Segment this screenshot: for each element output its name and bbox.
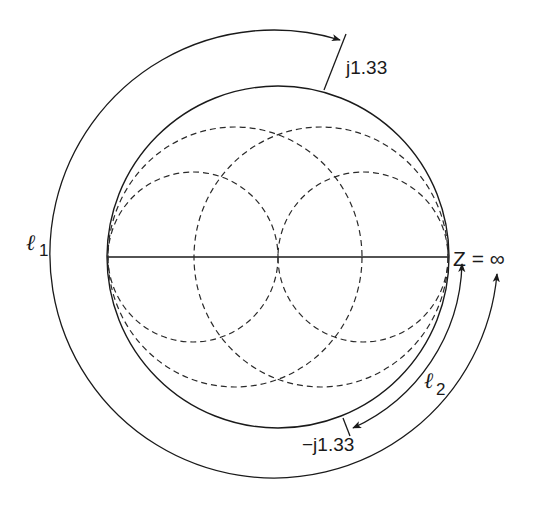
l1-subscript: 1 [39,241,48,260]
j133-tick-mark [324,34,346,90]
l2-symbol: ℓ [424,368,434,393]
l1-label: ℓ 1 [26,230,48,260]
l2-label: ℓ 2 [424,368,445,399]
j133-label: j1.33 [345,57,387,78]
neg-j133-label: −j1.33 [302,434,354,455]
l1-symbol: ℓ [26,230,36,255]
l1-arc [50,30,497,478]
z-infinity-label: Z = ∞ [453,247,505,270]
smith-chart-diagram: j1.33 −j1.33 Z = ∞ ℓ 1 ℓ 2 [0,0,540,505]
l2-subscript: 2 [436,380,445,399]
